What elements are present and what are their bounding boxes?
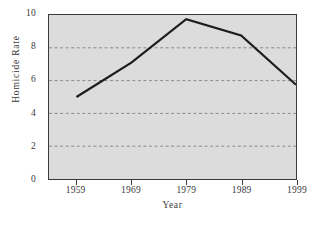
x-axis-tick-label: 1989 bbox=[232, 186, 252, 196]
chart-figure: 0246810 Homicide Rate 195919691979198919… bbox=[0, 0, 325, 226]
y-axis-tick-labels: 0246810 bbox=[0, 0, 44, 226]
y-axis-title: Homicide Rate bbox=[11, 9, 21, 129]
x-axis-tick-label: 1979 bbox=[176, 186, 196, 196]
x-axis-title: Year bbox=[48, 200, 297, 210]
x-axis-tick-label: 1969 bbox=[121, 186, 141, 196]
y-axis-tick-label: 8 bbox=[31, 42, 36, 52]
y-axis-tick-label: 2 bbox=[31, 142, 36, 152]
line-series bbox=[49, 15, 296, 179]
y-axis-tick-label: 6 bbox=[31, 75, 36, 85]
series-line bbox=[76, 19, 296, 97]
x-axis-tick-label: 1959 bbox=[66, 186, 86, 196]
x-axis-tick-label: 1999 bbox=[287, 186, 307, 196]
y-axis-tick-label: 4 bbox=[31, 109, 36, 119]
x-axis-ticks: 19591969197919891999 bbox=[0, 180, 325, 186]
y-axis-tick-label: 10 bbox=[26, 9, 36, 19]
plot-area bbox=[48, 14, 297, 180]
